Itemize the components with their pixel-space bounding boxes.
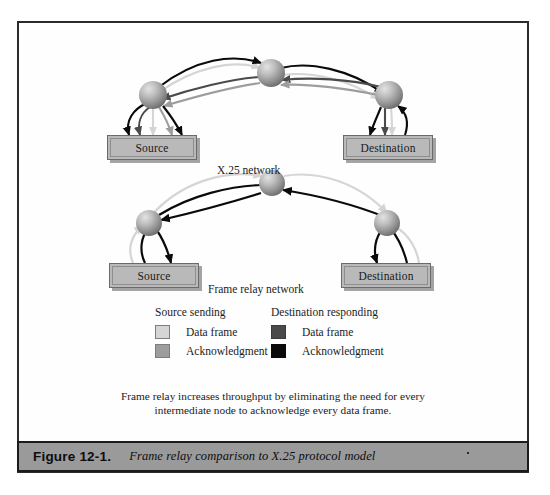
legend-swatch-source-acknowledgment <box>155 344 170 358</box>
legend-source-title: Source sending <box>155 306 268 318</box>
legend-swatch-destination-acknowledgment <box>271 344 286 358</box>
node-sphere-fr-left <box>136 210 162 236</box>
legend-label-destination-acknowledgment: Acknowledgment <box>302 345 384 357</box>
x25-network-label: X.25 network <box>217 164 280 176</box>
x25-destination-label: Destination <box>360 142 415 154</box>
arc-dest-data-node2src <box>139 107 150 135</box>
fr-arc-black-l2m <box>159 185 261 215</box>
legend-item-source-acknowledgment: Acknowledgment <box>155 344 268 358</box>
figure-note-line-1: Frame relay increases throughput by elim… <box>73 389 473 403</box>
legend-item-source-data-frame: Data frame <box>155 325 268 339</box>
arc-black-node2dst <box>398 106 407 135</box>
x25-destination-box: Destination <box>343 135 433 160</box>
figure-note: Frame relay increases throughput by elim… <box>73 389 473 417</box>
node-sphere-fr-right <box>374 210 400 236</box>
network-diagrams-svg <box>19 23 527 303</box>
fr-arc-black-r2m <box>283 190 385 217</box>
node-sphere-x25-right <box>375 81 403 109</box>
figure-area: Source Destination X.25 network Source D… <box>19 23 527 433</box>
frame-relay-destination-box: Destination <box>341 263 431 288</box>
legend-column-destination: Destination responding Data frame Acknow… <box>271 306 384 363</box>
x25-source-box: Source <box>107 135 197 160</box>
frame-relay-network-label: Frame relay network <box>208 283 304 295</box>
arc-src-data-dst2node <box>391 108 392 135</box>
arc-dest-ack-node2src <box>128 103 147 135</box>
frame-relay-source-box: Source <box>109 263 199 288</box>
fr-arc-src-data-node2dst <box>396 227 419 263</box>
x25-source-label: Source <box>135 142 168 154</box>
legend-column-source: Source sending Data frame Acknowledgment <box>155 306 268 363</box>
legend-label-destination-data-frame: Data frame <box>302 326 353 338</box>
x25-diagram-graphics <box>128 58 407 135</box>
legend-label-source-acknowledgment: Acknowledgment <box>186 345 268 357</box>
legend-label-source-data-frame: Data frame <box>186 326 237 338</box>
figure-caption-bar: Figure 12-1. Frame relay comparison to X… <box>17 441 529 472</box>
figure-note-line-2: intermediate node to acknowledge every d… <box>73 403 473 417</box>
arc-dest-ack-node2dst <box>370 107 381 135</box>
legend-swatch-source-data-frame <box>155 325 170 339</box>
legend-item-destination-acknowledgment: Acknowledgment <box>271 344 384 358</box>
figure-caption-number: Figure 12-1. <box>33 449 111 464</box>
caption-dot-mark <box>467 452 469 454</box>
node-sphere-x25-left <box>139 81 167 109</box>
legend-swatch-destination-data-frame <box>271 325 286 339</box>
fr-arc-black-node2src <box>156 229 171 263</box>
arc-src-ack-src2node <box>159 107 172 135</box>
node-sphere-x25-middle <box>257 59 285 87</box>
frame-relay-source-label: Source <box>137 270 170 282</box>
legend-item-destination-data-frame: Data frame <box>271 325 384 339</box>
arc-dest-data-r2m <box>282 79 381 87</box>
frame-relay-destination-label: Destination <box>358 270 413 282</box>
legend-destination-title: Destination responding <box>271 306 384 318</box>
figure-caption-text: Frame relay comparison to X.25 protocol … <box>129 449 375 464</box>
frame-relay-diagram-graphics <box>130 170 419 263</box>
